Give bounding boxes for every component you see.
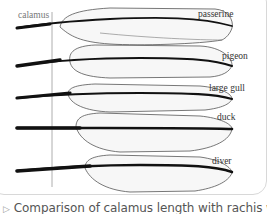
feather-label-duck: duck — [217, 113, 235, 123]
feather-pigeon — [17, 45, 232, 78]
feather-label-pigeon: pigeon — [222, 52, 248, 62]
feather-diagram — [0, 0, 267, 214]
feather-label-passerine: passerine — [198, 10, 233, 20]
figure-caption: ▷Comparison of calamus length with rachi… — [3, 201, 267, 214]
calamus-label: calamus — [18, 11, 49, 21]
feather-label-diver: diver — [212, 157, 232, 167]
feather-label-large-gull: large gull — [209, 84, 245, 94]
triangle-right-icon: ▷ — [3, 204, 10, 214]
feather-large-gull — [17, 84, 232, 112]
feather-duck — [17, 113, 232, 152]
caption-text: Comparison of calamus length with rachis… — [14, 201, 267, 214]
feather-diver — [17, 155, 232, 192]
